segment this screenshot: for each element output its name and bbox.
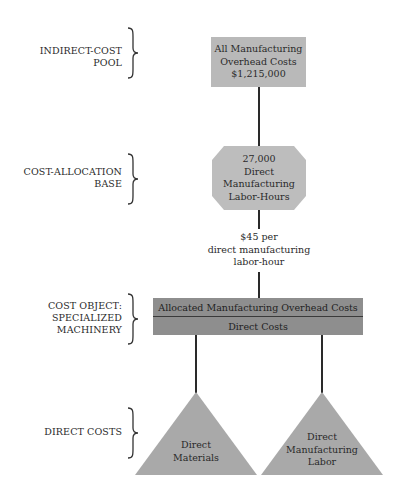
rate-line: labor-hour <box>184 256 334 269</box>
brace-icon <box>127 153 139 205</box>
triangle-text: Direct <box>272 431 372 444</box>
direct-manufacturing-labor-label: Direct Manufacturing Labor <box>272 431 372 469</box>
label-cost-object: COST OBJECT: SPECIALIZED MACHINERY <box>48 300 122 336</box>
label-cost-allocation-base: COST-ALLOCATION BASE <box>24 166 122 190</box>
label-line: DIRECT COSTS <box>44 426 122 438</box>
label-indirect-cost-pool: INDIRECT-COST POOL <box>40 45 122 69</box>
label-line: MACHINERY <box>48 324 122 336</box>
label-line: COST OBJECT: <box>48 300 122 312</box>
triangle-text: Labor <box>272 456 372 469</box>
rate-line: direct manufacturing <box>184 244 334 257</box>
label-line: BASE <box>24 178 122 190</box>
box-text: Overhead Costs <box>220 56 296 69</box>
allocation-rate-text: $45 per direct manufacturing labor-hour <box>184 231 334 269</box>
label-direct-costs: DIRECT COSTS <box>44 426 122 438</box>
rate-line: $45 per <box>184 231 334 244</box>
triangle-text: Manufacturing <box>272 444 372 457</box>
indirect-cost-pool-box: All Manufacturing Overhead Costs $1,215,… <box>211 37 306 87</box>
octagon-text: 27,000 <box>242 153 275 166</box>
connector-line <box>258 272 260 298</box>
brace-icon <box>127 27 139 79</box>
connector-line <box>321 335 323 393</box>
connector-line <box>258 210 260 229</box>
triangle-text: Direct <box>146 439 246 452</box>
label-line: SPECIALIZED <box>48 312 122 324</box>
cost-object-bar: Allocated Manufacturing Overhead Costs D… <box>153 298 363 335</box>
cost-allocation-base-octagon: 27,000 Direct Manufacturing Labor-Hours <box>212 146 306 210</box>
allocated-overhead-segment: Allocated Manufacturing Overhead Costs <box>153 298 363 316</box>
box-text: All Manufacturing <box>215 43 303 56</box>
label-line: POOL <box>40 57 122 69</box>
direct-materials-label: Direct Materials <box>146 439 246 464</box>
label-line: COST-ALLOCATION <box>24 166 122 178</box>
connector-line <box>195 335 197 393</box>
label-line: INDIRECT-COST <box>40 45 122 57</box>
box-amount: $1,215,000 <box>231 68 285 81</box>
octagon-text: Manufacturing <box>223 178 295 191</box>
octagon-text: Labor-Hours <box>228 191 289 204</box>
connector-line <box>258 87 260 146</box>
octagon-text: Direct <box>244 166 274 179</box>
triangle-text: Materials <box>146 452 246 465</box>
direct-costs-segment: Direct Costs <box>153 317 363 335</box>
brace-icon <box>127 293 139 345</box>
